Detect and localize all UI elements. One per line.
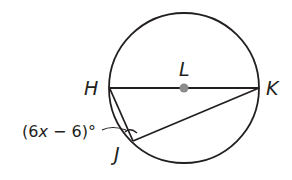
label-j: J xyxy=(110,143,120,165)
chord-jk xyxy=(133,88,259,141)
label-h: H xyxy=(84,77,98,99)
circle-diagram: H L K J (6x − 6)° xyxy=(0,0,292,180)
center-point-l xyxy=(180,84,189,93)
angle-rest: − 6)° xyxy=(48,122,96,141)
label-k: K xyxy=(266,77,280,99)
angle-measure-label: (6x − 6)° xyxy=(22,122,96,141)
angle-open: (6 xyxy=(22,122,38,141)
angle-arc-j xyxy=(125,130,137,133)
angle-variable: x xyxy=(37,122,48,141)
label-l: L xyxy=(179,58,190,80)
